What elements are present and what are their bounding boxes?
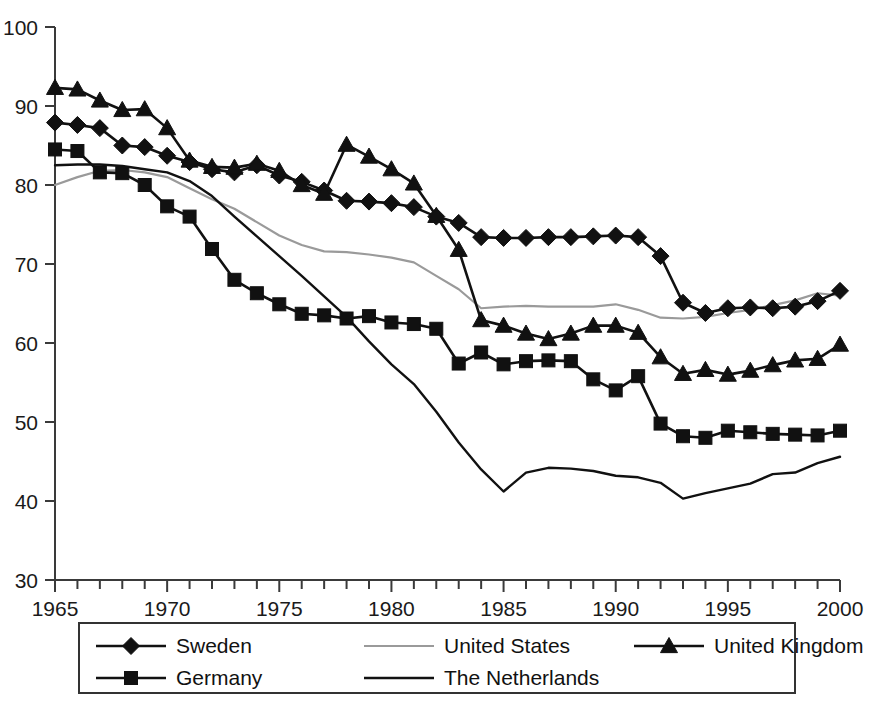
data-point-marker-diamond xyxy=(742,299,759,316)
data-point-marker-square xyxy=(318,309,331,322)
data-point-marker-triangle xyxy=(697,361,714,376)
data-point-marker-diamond xyxy=(540,229,557,246)
legend-swatch-square xyxy=(94,667,168,689)
legend-item-label: Germany xyxy=(176,666,262,690)
data-point-marker-diamond xyxy=(136,139,153,156)
data-point-marker-square xyxy=(452,357,465,370)
data-point-marker-triangle xyxy=(383,161,400,176)
legend-swatch-line xyxy=(362,667,436,689)
y-tick-label: 80 xyxy=(15,174,38,197)
data-point-marker-square xyxy=(609,384,622,397)
data-point-marker-square xyxy=(654,417,667,430)
data-point-marker-triangle xyxy=(809,350,826,365)
x-tick-label: 1990 xyxy=(592,597,639,620)
data-point-marker-diamond xyxy=(473,229,490,246)
data-point-marker-square xyxy=(116,167,129,180)
data-point-marker-square xyxy=(744,426,757,439)
data-point-marker-triangle xyxy=(405,175,422,190)
data-point-marker-square xyxy=(542,354,555,367)
series-united-kingdom xyxy=(47,79,849,381)
data-point-marker-square xyxy=(789,428,802,441)
data-point-marker-square xyxy=(632,370,645,383)
data-point-marker-square xyxy=(125,672,138,685)
data-point-marker-square xyxy=(71,145,84,158)
data-point-marker-diamond xyxy=(764,300,781,317)
legend-item-united-states[interactable]: United States xyxy=(362,634,632,658)
data-point-marker-square xyxy=(430,322,443,335)
data-point-marker-diamond xyxy=(585,228,602,245)
data-point-marker-square xyxy=(721,424,734,437)
data-point-marker-triangle xyxy=(832,336,849,351)
y-tick-label: 100 xyxy=(3,16,38,39)
data-point-marker-diamond xyxy=(562,229,579,246)
x-tick-label: 2000 xyxy=(817,597,864,620)
legend-marker-icon xyxy=(94,635,168,657)
data-point-marker-square xyxy=(497,358,510,371)
series-germany xyxy=(49,143,847,444)
legend-item-germany[interactable]: Germany xyxy=(94,666,362,690)
x-tick-label: 1980 xyxy=(368,597,415,620)
legend-marker-icon xyxy=(94,667,168,689)
series-sweden xyxy=(47,114,849,321)
data-point-marker-diamond xyxy=(361,193,378,210)
data-point-marker-square xyxy=(138,179,151,192)
data-point-marker-triangle xyxy=(47,79,64,94)
series-layer xyxy=(47,79,849,498)
y-tick-label: 50 xyxy=(15,411,38,434)
x-tick-label: 1970 xyxy=(144,597,191,620)
legend-marker-icon xyxy=(362,635,436,657)
y-tick-label: 90 xyxy=(15,95,38,118)
y-axis-ticks xyxy=(45,27,55,580)
data-point-marker-triangle xyxy=(450,241,467,256)
data-point-marker-square xyxy=(206,242,219,255)
data-point-marker-diamond xyxy=(69,116,86,133)
data-point-marker-square xyxy=(183,210,196,223)
legend-swatch-diamond xyxy=(94,635,168,657)
y-axis-tick-labels: 30405060708090100 xyxy=(3,16,38,592)
data-point-marker-square xyxy=(766,427,779,440)
legend-swatch-line xyxy=(362,635,436,657)
legend-item-label: The Netherlands xyxy=(444,666,599,690)
x-tick-label: 1995 xyxy=(704,597,751,620)
data-point-marker-diamond xyxy=(675,294,692,311)
data-point-marker-diamond xyxy=(338,192,355,209)
series-the-netherlands xyxy=(55,164,840,498)
chart-root: 30405060708090100 1965197019751980198519… xyxy=(0,0,870,707)
data-point-marker-square xyxy=(273,298,286,311)
data-point-marker-square xyxy=(564,355,577,368)
series-united-states xyxy=(55,170,840,319)
legend-item-the-netherlands[interactable]: The Netherlands xyxy=(362,666,632,690)
data-point-marker-square xyxy=(834,424,847,437)
legend-item-sweden[interactable]: Sweden xyxy=(94,634,362,658)
data-point-marker-square xyxy=(475,346,488,359)
data-point-marker-square xyxy=(677,430,690,443)
legend-swatch-triangle xyxy=(632,635,706,657)
data-point-marker-triangle xyxy=(473,312,490,327)
legend-item-united-kingdom[interactable]: United Kingdom xyxy=(632,634,863,658)
data-point-marker-square xyxy=(407,318,420,331)
data-point-marker-diamond xyxy=(47,114,64,131)
data-point-marker-square xyxy=(250,287,263,300)
y-tick-label: 70 xyxy=(15,253,38,276)
data-point-marker-square xyxy=(363,310,376,323)
data-point-marker-square xyxy=(295,307,308,320)
data-point-marker-diamond xyxy=(405,199,422,216)
data-point-marker-square xyxy=(161,200,174,213)
data-point-marker-square xyxy=(699,431,712,444)
data-point-marker-square xyxy=(228,273,241,286)
data-point-marker-diamond xyxy=(159,147,176,164)
x-axis-tick-labels: 19651970197519801985199019952000 xyxy=(32,597,864,620)
x-tick-label: 1965 xyxy=(32,597,79,620)
series-line xyxy=(55,164,840,498)
data-point-marker-diamond xyxy=(518,229,535,246)
data-point-marker-diamond xyxy=(123,638,140,655)
data-point-marker-square xyxy=(340,312,353,325)
data-point-marker-diamond xyxy=(697,304,714,321)
y-tick-label: 30 xyxy=(15,569,38,592)
data-point-marker-diamond xyxy=(383,195,400,212)
x-tick-label: 1975 xyxy=(256,597,303,620)
y-tick-label: 40 xyxy=(15,490,38,513)
series-line xyxy=(55,123,840,313)
data-point-marker-square xyxy=(49,143,62,156)
data-point-marker-triangle xyxy=(361,148,378,163)
